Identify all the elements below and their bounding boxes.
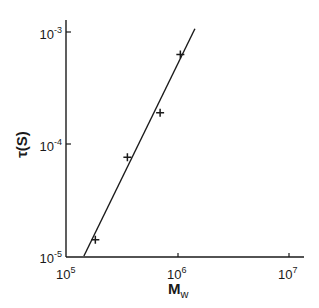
y-axis-title: τ(S) — [13, 128, 30, 162]
x-tick-label: 106 — [167, 266, 186, 281]
fit-line — [84, 29, 195, 256]
plus-marker — [156, 109, 164, 117]
y-tick-label: 10-5 — [40, 250, 62, 265]
x-tick-label: 105 — [56, 266, 75, 281]
y-ticks — [66, 32, 71, 144]
y-tick-label: 10-4 — [40, 138, 62, 153]
y-tick-label: 10-3 — [40, 26, 62, 41]
x-axis-title: Mw — [168, 280, 188, 300]
x-tick-label: 107 — [278, 266, 297, 281]
